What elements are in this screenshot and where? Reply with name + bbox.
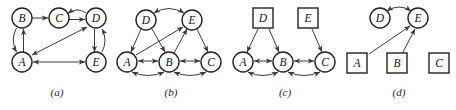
node-d-label: D — [91, 12, 101, 24]
edge-b-to-e — [402, 29, 415, 54]
graph-d-nodes: D E A B C — [347, 8, 449, 73]
node-b-label: B — [18, 12, 25, 24]
edge-b-c-curved-bidirectional — [174, 72, 206, 76]
edge-d-e-curved-bidirectional — [154, 9, 184, 14]
node-e-label: E — [91, 56, 99, 68]
graph-d-canvas: D E A B C — [342, 0, 456, 84]
diagram-panel-a: B C D A E (a) — [0, 0, 114, 110]
edge-d-to-b — [152, 29, 165, 52]
edge-e-to-c — [197, 29, 208, 52]
node-a-label: A — [17, 56, 26, 68]
node-e-label: E — [413, 12, 421, 24]
node-a-label: A — [352, 57, 361, 69]
diagram-panel-c: D E A B C (c) — [228, 0, 342, 110]
graph-b-canvas: D E A B C — [114, 0, 228, 84]
edge-d-to-a — [247, 29, 258, 52]
node-a-label: A — [122, 56, 131, 68]
node-e-label: E — [187, 14, 195, 26]
edge-e-to-d-curved — [102, 29, 105, 52]
panel-a-caption: (a) — [0, 84, 114, 100]
figure-panel-row: B C D A E (a) — [0, 0, 456, 110]
node-c-label: C — [207, 56, 215, 68]
node-c-label: C — [321, 56, 329, 68]
edge-a-b-curved-bidirectional — [248, 72, 278, 76]
edge-a-b-curved-bidirectional — [132, 72, 164, 76]
panel-d-caption: (d) — [342, 84, 456, 100]
graph-c-nodes: D E A B C — [233, 8, 335, 72]
node-d-label: D — [258, 12, 268, 24]
node-c-label: C — [55, 12, 63, 24]
node-d-label: D — [141, 14, 151, 26]
node-b-label: B — [279, 56, 286, 68]
node-e-label: E — [303, 12, 311, 24]
edge-d-to-a — [131, 29, 141, 52]
edge-d-e-curved-bidirectional — [387, 7, 411, 11]
edge-e-to-c — [312, 29, 322, 52]
edge-a-to-e — [136, 27, 183, 55]
edge-b-c-curved-bidirectional — [288, 72, 320, 76]
node-d-label: D — [375, 12, 385, 24]
edge-a-d-bidirectional — [32, 27, 87, 55]
graph-a-canvas: B C D A E — [0, 0, 114, 84]
panel-c-caption: (c) — [228, 84, 342, 100]
graph-b-nodes: D E A B C — [117, 10, 221, 72]
edge-b-to-e — [174, 29, 187, 53]
diagram-panel-d: D E A B C (d) — [342, 0, 456, 110]
panel-b-caption: (b) — [114, 84, 228, 100]
edge-d-to-c-curved — [68, 10, 86, 14]
diagram-panel-b: D E A B C (b) — [114, 0, 228, 110]
node-b-label: B — [165, 56, 172, 68]
edge-b-to-a-curved — [13, 28, 16, 52]
node-b-label: B — [393, 57, 400, 69]
node-c-label: C — [435, 57, 443, 69]
graph-c-canvas: D E A B C — [228, 0, 342, 84]
edge-d-to-b — [269, 29, 279, 52]
node-a-label: A — [238, 56, 247, 68]
